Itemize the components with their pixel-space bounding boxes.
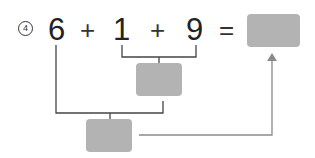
connector-lines: [0, 0, 315, 158]
bracket-1-9: [122, 45, 196, 57]
result-arrow: [139, 60, 272, 135]
bracket-6-box: [56, 45, 163, 113]
arrow-head-icon: [267, 53, 277, 61]
bracket-lines: [56, 45, 196, 119]
